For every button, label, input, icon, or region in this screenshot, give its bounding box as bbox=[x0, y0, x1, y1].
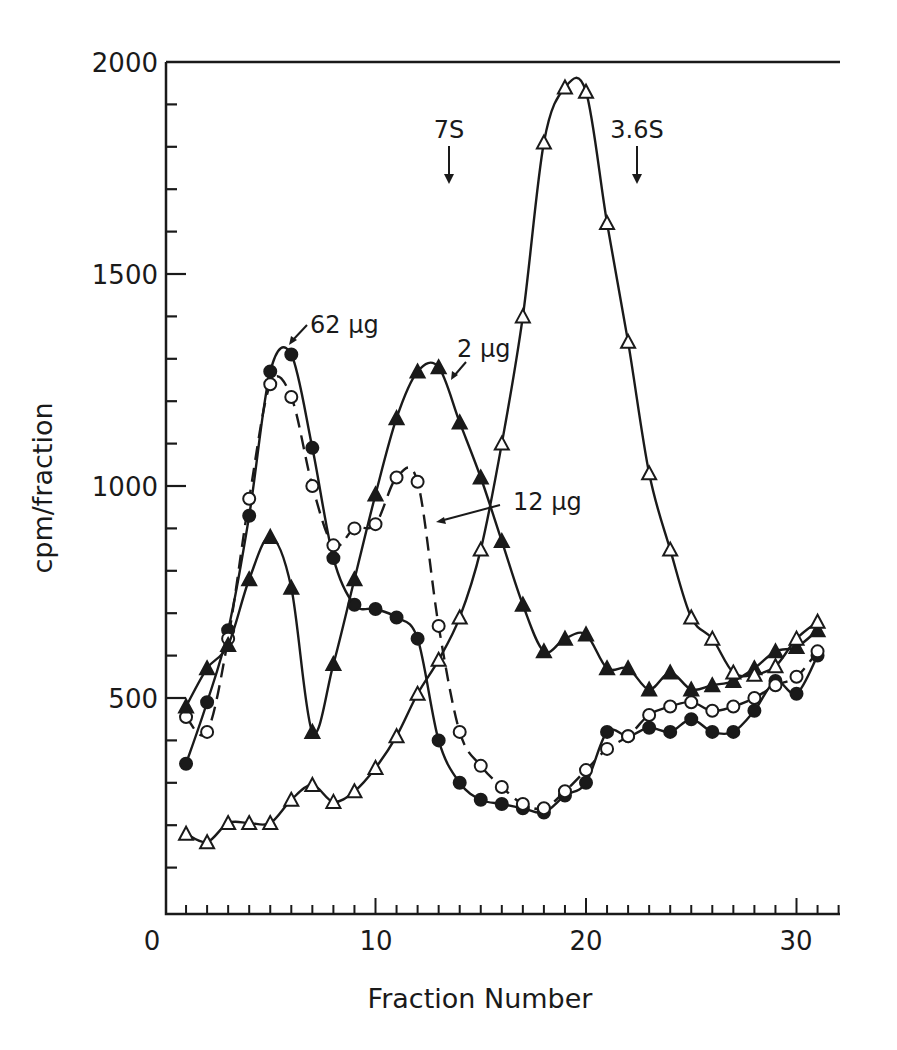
open-circle-marker-icon bbox=[517, 798, 529, 810]
open-circle-marker-icon bbox=[748, 692, 760, 704]
y-tick-label-1000: 1000 bbox=[92, 472, 158, 502]
x-tick-label-20: 20 bbox=[569, 926, 602, 956]
open-circle-marker-icon bbox=[727, 700, 739, 712]
open-triangle-marker-icon bbox=[811, 615, 825, 628]
filled-circle-marker-icon bbox=[264, 366, 276, 378]
filled-circle-marker-icon bbox=[454, 777, 466, 789]
open-circle-marker-icon bbox=[243, 493, 255, 505]
filled-triangle-marker-icon bbox=[347, 572, 361, 585]
open-triangle-marker-icon bbox=[179, 827, 193, 840]
y-tick-label-2000: 2000 bbox=[92, 48, 158, 78]
open-circle-marker-icon bbox=[412, 476, 424, 488]
open-circle-marker-icon bbox=[475, 760, 487, 772]
filled-circle-marker-icon bbox=[327, 552, 339, 564]
filled-circle-marker-icon bbox=[664, 726, 676, 738]
y-tick-label-500: 500 bbox=[108, 684, 158, 714]
open-circle-marker-icon bbox=[664, 700, 676, 712]
open-circle-marker-icon bbox=[812, 645, 824, 657]
filled-circle-marker-icon bbox=[580, 777, 592, 789]
marker-3.6s-label: 3.6S bbox=[610, 116, 663, 144]
open-circle-marker-icon bbox=[622, 730, 634, 742]
y-axis-title: cpm/fraction bbox=[27, 402, 58, 573]
series-0 bbox=[180, 347, 824, 818]
filled-triangle-marker-icon bbox=[284, 581, 298, 594]
open-circle-marker-icon bbox=[559, 785, 571, 797]
filled-triangle-marker-icon bbox=[263, 530, 277, 543]
open-triangle-marker-icon bbox=[516, 309, 530, 322]
series-2 bbox=[179, 360, 825, 738]
open-circle-marker-icon bbox=[391, 472, 403, 484]
open-circle-marker-icon bbox=[285, 391, 297, 403]
open-triangle-marker-icon bbox=[621, 335, 635, 348]
open-triangle-marker-icon bbox=[411, 687, 425, 700]
open-triangle-marker-icon bbox=[495, 437, 509, 450]
filled-circle-marker-icon bbox=[748, 705, 760, 717]
open-triangle-marker-icon bbox=[474, 543, 488, 556]
open-triangle-marker-icon bbox=[642, 466, 656, 479]
filled-triangle-marker-icon bbox=[495, 534, 509, 547]
filled-triangle-marker-icon bbox=[369, 487, 383, 500]
open-circle-marker-icon bbox=[327, 539, 339, 551]
open-circle-marker-icon bbox=[791, 671, 803, 683]
filled-triangle-marker-icon bbox=[326, 657, 340, 670]
open-circle-marker-icon bbox=[496, 781, 508, 793]
filled-circle-marker-icon bbox=[433, 734, 445, 746]
arrowhead-3.6s-icon bbox=[632, 174, 642, 184]
x-axis-title: Fraction Number bbox=[368, 983, 594, 1014]
filled-triangle-marker-icon bbox=[390, 411, 404, 424]
sedimentation-chart: 2000 1500 1000 500 0 10 20 30 Fraction N… bbox=[0, 0, 897, 1050]
open-circle-marker-icon bbox=[201, 726, 213, 738]
open-triangle-marker-icon bbox=[453, 610, 467, 623]
filled-circle-marker-icon bbox=[601, 726, 613, 738]
open-triangle-marker-icon bbox=[305, 778, 319, 791]
open-circle-marker-icon bbox=[769, 679, 781, 691]
open-circle-marker-icon bbox=[580, 764, 592, 776]
open-circle-marker-icon bbox=[433, 620, 445, 632]
pointer-12ug-head-icon bbox=[436, 517, 446, 524]
arrowhead-7s-icon bbox=[444, 174, 454, 184]
filled-triangle-marker-icon bbox=[579, 627, 593, 640]
filled-triangle-marker-icon bbox=[642, 683, 656, 696]
open-circle-marker-icon bbox=[306, 480, 318, 492]
y-ticks bbox=[166, 104, 186, 867]
open-triangle-marker-icon bbox=[537, 136, 551, 149]
open-circle-marker-icon bbox=[348, 522, 360, 534]
series-line bbox=[186, 347, 818, 813]
filled-circle-marker-icon bbox=[727, 726, 739, 738]
open-circle-marker-icon bbox=[601, 743, 613, 755]
filled-circle-marker-icon bbox=[391, 611, 403, 623]
series-line bbox=[186, 78, 818, 843]
filled-triangle-marker-icon bbox=[474, 471, 488, 484]
filled-circle-marker-icon bbox=[706, 726, 718, 738]
filled-circle-marker-icon bbox=[285, 349, 297, 361]
open-triangle-marker-icon bbox=[684, 610, 698, 623]
filled-circle-marker-icon bbox=[180, 758, 192, 770]
filled-circle-marker-icon bbox=[496, 798, 508, 810]
filled-circle-marker-icon bbox=[306, 442, 318, 454]
open-triangle-marker-icon bbox=[579, 85, 593, 98]
x-tick-label-10: 10 bbox=[359, 926, 392, 956]
filled-triangle-marker-icon bbox=[558, 632, 572, 645]
filled-triangle-marker-icon bbox=[663, 666, 677, 679]
y-tick-label-1500: 1500 bbox=[92, 260, 158, 290]
open-circle-marker-icon bbox=[685, 696, 697, 708]
open-circle-marker-icon bbox=[643, 709, 655, 721]
marker-7s-label: 7S bbox=[434, 116, 465, 144]
open-triangle-marker-icon bbox=[663, 543, 677, 556]
label-12ug: 12 µg bbox=[513, 488, 582, 516]
filled-circle-marker-icon bbox=[370, 603, 382, 615]
filled-triangle-marker-icon bbox=[179, 699, 193, 712]
open-circle-marker-icon bbox=[370, 518, 382, 530]
open-circle-marker-icon bbox=[706, 705, 718, 717]
filled-circle-marker-icon bbox=[643, 722, 655, 734]
filled-circle-marker-icon bbox=[201, 696, 213, 708]
filled-triangle-marker-icon bbox=[453, 415, 467, 428]
filled-circle-marker-icon bbox=[475, 794, 487, 806]
x-tick-label-0: 0 bbox=[144, 926, 161, 956]
series-line bbox=[186, 363, 818, 734]
open-circle-marker-icon bbox=[538, 802, 550, 814]
label-2ug: 2 µg bbox=[457, 335, 510, 363]
filled-circle-marker-icon bbox=[412, 633, 424, 645]
open-circle-marker-icon bbox=[264, 378, 276, 390]
x-ticks bbox=[186, 898, 839, 914]
